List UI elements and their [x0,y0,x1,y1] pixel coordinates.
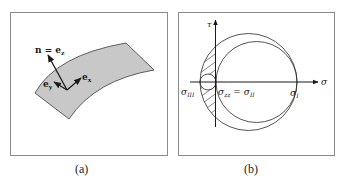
figure-canvas: n = ez ex ey τ σ σIII σzz = σII σI [0,0,347,184]
tau-axis-label: τ [207,20,212,29]
sigma-I-label: σI [290,88,299,99]
normal-label: n = ez [35,45,65,56]
sigma-axis-label: σ [321,77,328,87]
sigma-zz-equals-sigma-II-label: σzz = σII [218,87,255,98]
sigma-III-label: σIII [181,87,195,98]
caption-b: (b) [244,162,258,177]
caption-a: (a) [75,162,88,177]
